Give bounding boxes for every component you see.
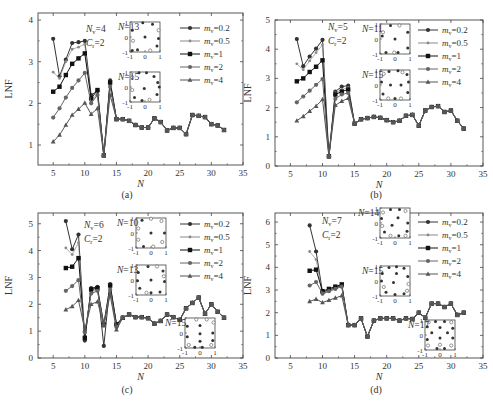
inset-open-point xyxy=(401,71,404,74)
inset-n-11: -1-10011N=11 xyxy=(361,21,412,64)
chart-panel-b: 5101520253035012345NLNF(b)Nv=5Cr=2mv=0.2… xyxy=(242,15,488,201)
legend-marker xyxy=(426,28,430,32)
inset-filled-point xyxy=(131,49,134,52)
y-tick-label: 1 xyxy=(29,326,34,336)
inset-filled-point xyxy=(389,208,392,211)
x-tick-label: 35 xyxy=(479,361,489,371)
inset-label: N=11 xyxy=(361,24,383,34)
series-line xyxy=(53,53,224,155)
y-tick-label: 2 xyxy=(29,299,34,309)
legend-item: mv=1 xyxy=(180,49,223,60)
legend-item: mv=4 xyxy=(180,271,224,282)
inset-label: N=14 xyxy=(357,208,379,218)
annotation-cr: Cr=2 xyxy=(322,230,341,241)
data-point xyxy=(77,46,80,49)
data-point xyxy=(71,48,74,51)
inset-x-tick-label: -1 xyxy=(377,55,383,63)
legend-marker xyxy=(188,65,192,69)
inset-filled-point xyxy=(156,93,159,96)
x-tick-label: 20 xyxy=(382,361,392,371)
inset-filled-point xyxy=(150,232,153,235)
data-point xyxy=(89,291,93,295)
x-tick-label: 35 xyxy=(239,168,249,178)
legend-item: mv=0.2 xyxy=(180,219,230,230)
inset-filled-point xyxy=(151,23,154,26)
inset-x-tick-label: 1 xyxy=(164,249,168,257)
data-point xyxy=(64,219,68,223)
panel-caption: (b) xyxy=(370,189,382,201)
inset-n-15: -1-10011N=15 xyxy=(117,69,162,112)
data-point xyxy=(64,289,68,293)
inset-filled-point xyxy=(150,291,153,294)
legend-marker xyxy=(189,40,192,43)
x-axis-title: N xyxy=(136,371,145,382)
data-point xyxy=(314,65,318,69)
inset-filled-point xyxy=(201,346,204,349)
inset-filled-point xyxy=(162,270,165,273)
inset-y-tick-label: 0 xyxy=(131,230,135,238)
data-point xyxy=(77,241,80,244)
inset-label: N=13 xyxy=(116,265,138,275)
inset-label: N=15 xyxy=(361,70,383,80)
legend-marker xyxy=(188,26,192,30)
inset-x-tick-label: 0 xyxy=(393,55,397,63)
inset-x-tick-label: 1 xyxy=(453,351,457,359)
inset-n-17: -1-10011N=17 xyxy=(407,317,457,360)
legend-item: mv=2 xyxy=(180,258,223,269)
data-point xyxy=(71,253,74,256)
legend-label: mv=0.2 xyxy=(442,217,468,228)
inset-open-point xyxy=(381,211,384,214)
x-tick-label: 25 xyxy=(175,361,185,371)
y-tick-label: 5 xyxy=(266,15,271,25)
data-point xyxy=(327,289,331,293)
inset-filled-point xyxy=(397,234,400,237)
inset-filled-point xyxy=(156,45,159,48)
x-tick-label: 25 xyxy=(414,169,424,179)
panel-caption: (c) xyxy=(121,384,132,396)
y-tick-label: 2 xyxy=(266,103,271,113)
legend-label: mv=0.5 xyxy=(204,232,230,243)
legend-marker xyxy=(188,52,192,56)
data-point xyxy=(108,80,112,84)
inset-filled-point xyxy=(446,331,449,334)
data-point xyxy=(108,283,112,287)
data-point xyxy=(302,68,305,71)
data-point xyxy=(83,336,87,340)
data-point xyxy=(314,267,318,271)
data-point xyxy=(57,106,61,110)
inset-n-15: -1-10011N=15 xyxy=(164,315,217,358)
inset-filled-point xyxy=(443,320,446,323)
inset-label: N=15 xyxy=(117,72,139,82)
data-point xyxy=(70,265,74,269)
inset-filled-point xyxy=(163,280,166,283)
data-point xyxy=(51,37,55,41)
legend-label: mv=2 xyxy=(204,258,223,269)
inset-filled-point xyxy=(439,337,442,340)
x-tick-label: 5 xyxy=(51,361,56,371)
inset-filled-point xyxy=(391,224,394,227)
inset-filled-point xyxy=(136,48,139,51)
legend-marker xyxy=(426,54,430,58)
data-point xyxy=(64,73,68,77)
data-point xyxy=(340,84,344,88)
x-axis-title: N xyxy=(375,371,384,382)
data-point xyxy=(64,247,67,250)
legend-marker xyxy=(426,246,430,250)
x-tick-label: 30 xyxy=(207,361,217,371)
data-point xyxy=(70,86,74,90)
data-point xyxy=(70,41,74,45)
legend-label: mv=0.2 xyxy=(204,23,230,34)
data-point xyxy=(83,51,87,55)
inset-y-tick-label: 0 xyxy=(375,82,379,90)
legend-label: mv=4 xyxy=(442,269,462,280)
inset-open-point xyxy=(404,234,407,237)
inset-y-tick-label: 0 xyxy=(375,278,379,286)
inset-filled-point xyxy=(434,320,437,323)
inset-filled-point xyxy=(389,24,392,27)
inset-x-tick-label: 0 xyxy=(393,297,397,305)
data-point xyxy=(295,62,298,65)
inset-open-point xyxy=(161,240,164,243)
inset-filled-point xyxy=(398,208,401,211)
inset-n-10: -1-10011N=10 xyxy=(116,215,168,258)
inset-filled-point xyxy=(199,324,202,327)
